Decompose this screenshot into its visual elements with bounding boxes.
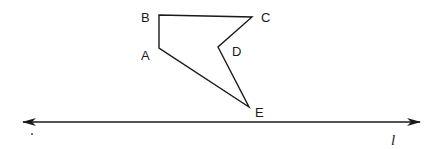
vertex-label-a: A [141,48,150,63]
polygon-abcde [159,15,252,107]
vertex-label-b: B [141,10,150,25]
vertex-label-d: D [232,44,241,59]
vertex-label-c: C [261,10,270,25]
stray-dot [31,133,33,135]
geometry-diagram: ABCDE l [0,0,438,149]
vertex-labels: ABCDE [141,10,270,120]
line-label-l: l [391,132,395,148]
vertex-label-e: E [255,105,264,120]
